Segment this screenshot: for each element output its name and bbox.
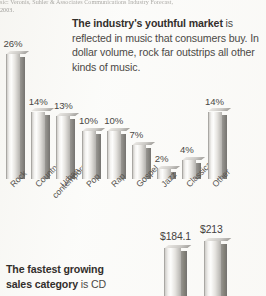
bar-other (208, 112, 222, 179)
infographic-page: sic: Veronis, Suhler & Associates Commun… (0, 0, 266, 296)
cd-sales-bar-top-cap (204, 238, 231, 241)
bar-rock (6, 54, 20, 179)
bar-urban-contemporary (56, 116, 70, 179)
bar-top-cap (56, 113, 79, 116)
cd-sales-bar-side-face (181, 251, 187, 296)
bottom-copy-rest: is CD (78, 278, 106, 290)
bar-value-label: 14% (205, 96, 224, 107)
bar-top-cap (82, 128, 105, 131)
body-copy-lead: The industry's youthful market (72, 17, 223, 29)
source-citation-line-1: sic: Veronis, Suhler & Associates Commun… (0, 0, 173, 5)
bar-top-cap (6, 51, 29, 54)
bottom-copy-lead2: sales category (6, 278, 78, 290)
bar-top-cap (182, 157, 205, 160)
bar-top-cap (157, 166, 180, 169)
source-citation: sic: Veronis, Suhler & Associates Commun… (0, 0, 266, 15)
cd-sales-bar-1 (204, 241, 221, 296)
bar-value-label: 14% (29, 96, 48, 107)
bar-value-label: 26% (4, 38, 23, 49)
cd-sales-bar-0 (164, 248, 181, 296)
bar-value-label: 4% (180, 144, 194, 155)
bottom-copy-lead: The fastest growing (6, 263, 104, 275)
bar-value-label: 10% (79, 115, 98, 126)
bar-top-cap (208, 108, 231, 111)
bar-side-face (20, 57, 25, 179)
bar-value-label: 2% (155, 153, 169, 164)
body-copy-block: The industry's youthful market is reflec… (72, 16, 266, 74)
bar-value-label: 13% (54, 100, 73, 111)
cd-sales-value-label: $213 (200, 224, 223, 235)
cd-sales-bar-chart: $184.1$213 (160, 232, 266, 296)
bar-top-cap (107, 128, 130, 131)
bar-value-label: 7% (130, 129, 144, 140)
bar-top-cap (31, 108, 54, 111)
bottom-copy-block: The fastest growing sales category is CD (6, 262, 156, 292)
bar-value-label: 10% (104, 115, 123, 126)
cd-sales-value-label: $184.1 (160, 231, 191, 242)
bar-top-cap (132, 142, 155, 145)
cd-sales-bar-top-cap (164, 245, 191, 248)
bar-country (31, 112, 45, 179)
cd-sales-bar-side-face (221, 244, 227, 296)
